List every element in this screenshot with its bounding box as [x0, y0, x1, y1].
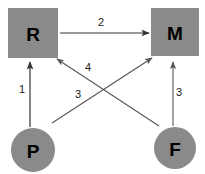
edge-p-to-r-label: 1 [19, 83, 25, 95]
node-r[interactable]: R [8, 8, 58, 58]
node-m[interactable]: M [151, 8, 199, 56]
edge-p-to-m-line [52, 58, 152, 123]
edge-f-to-r-label: 4 [85, 61, 91, 73]
edge-f-to-r-line [57, 59, 159, 126]
node-f-label: F [169, 139, 181, 160]
edge-p-to-r: 1 [19, 62, 30, 127]
diagram-canvas: 1 2 3 3 4 R M [0, 0, 205, 174]
node-p[interactable]: P [11, 128, 55, 172]
node-f[interactable]: F [154, 127, 196, 169]
diagram-svg: 1 2 3 3 4 R M [0, 0, 205, 174]
node-r-label: R [26, 24, 40, 45]
edge-r-to-m-label: 2 [98, 16, 104, 28]
edge-p-to-m-label: 3 [75, 88, 81, 100]
edge-f-to-m: 3 [173, 62, 182, 126]
node-m-label: M [167, 23, 183, 44]
node-p-label: P [27, 141, 40, 162]
edge-p-to-m: 3 [52, 58, 152, 123]
edge-f-to-r: 4 [57, 59, 159, 126]
edge-r-to-m: 2 [60, 16, 149, 33]
edge-f-to-m-label: 3 [176, 86, 182, 98]
